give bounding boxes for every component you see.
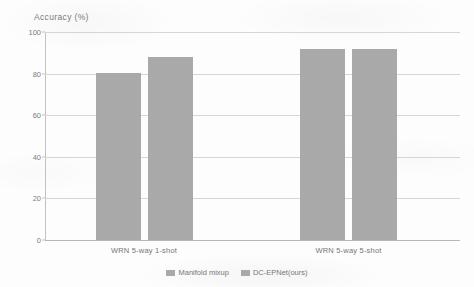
legend-label: Manifold mixup — [178, 268, 228, 277]
gridline-0 — [45, 240, 460, 241]
chart-legend: Manifold mixup DC-EPNet(ours) — [0, 268, 474, 277]
y-tick-label: 0 — [37, 236, 41, 245]
x-category-label: WRN 5-way 1-shot — [111, 246, 177, 255]
y-tick-label: 100 — [28, 28, 41, 37]
bar-dc-epnet-0 — [148, 57, 193, 240]
y-tick-label: 20 — [33, 194, 41, 203]
x-category-label: WRN 5-way 5-shot — [315, 246, 381, 255]
y-axis-title: Accuracy (%) — [34, 12, 89, 22]
y-tick-mark — [42, 115, 45, 116]
legend-label: DC-EPNet(ours) — [253, 268, 308, 277]
bar-chart: Accuracy (%) 020406080100WRN 5-way 1-sho… — [0, 0, 474, 287]
gridline-100 — [45, 32, 460, 33]
y-axis-line — [45, 32, 46, 240]
y-tick-mark — [42, 156, 45, 157]
bar-manifold-mixup-0 — [96, 73, 141, 240]
y-tick-label: 80 — [33, 69, 41, 78]
legend-swatch-icon — [241, 270, 250, 276]
legend-item: Manifold mixup — [166, 268, 228, 277]
y-tick-label: 40 — [33, 152, 41, 161]
bar-manifold-mixup-1 — [300, 49, 345, 240]
y-tick-mark — [42, 32, 45, 33]
y-tick-label: 60 — [33, 111, 41, 120]
bar-dc-epnet-1 — [352, 49, 397, 240]
legend-swatch-icon — [166, 270, 175, 276]
plot-area: 020406080100WRN 5-way 1-shotWRN 5-way 5-… — [45, 32, 460, 240]
y-tick-mark — [42, 198, 45, 199]
y-tick-mark — [42, 240, 45, 241]
legend-item: DC-EPNet(ours) — [241, 268, 308, 277]
chart-page: Accuracy (%) 020406080100WRN 5-way 1-sho… — [0, 0, 474, 287]
y-tick-mark — [42, 73, 45, 74]
